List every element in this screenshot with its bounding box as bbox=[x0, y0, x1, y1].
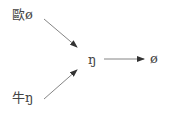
arrow-bottom-to-middle bbox=[44, 70, 77, 99]
node-result-label: ø bbox=[150, 52, 158, 65]
node-bottom-label: 牛ŋ bbox=[12, 91, 33, 104]
node-top-label: 歐ø bbox=[12, 8, 33, 21]
node-middle-label: ŋ bbox=[88, 53, 96, 66]
arrow-top-to-middle bbox=[44, 19, 77, 47]
